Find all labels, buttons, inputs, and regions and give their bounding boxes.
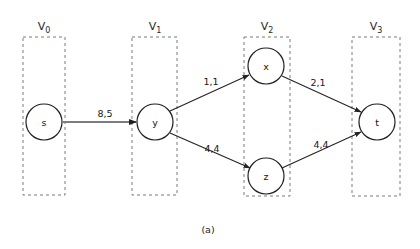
edge-label-y-x: 1,1 [203, 76, 218, 87]
edge-z-t [282, 132, 361, 168]
flow-network-diagram: V0V1V2V3 8,51,14,42,14,4 syxzt (a) [0, 0, 420, 249]
node-label-s: s [42, 117, 47, 128]
edge-label-s-y: 8,5 [97, 108, 112, 119]
edge-group [63, 75, 361, 168]
edge-label-y-z: 4,4 [204, 143, 219, 154]
layer-label-group: V0V1V2V3 [38, 20, 383, 35]
layer-group [23, 37, 400, 196]
node-label-x: x [263, 61, 269, 72]
node-label-z: z [264, 171, 269, 182]
edge-label-z-t: 4,4 [313, 139, 328, 150]
layer-label-v2: V2 [261, 20, 274, 35]
node-label-y: y [152, 117, 158, 128]
layer-label-v3: V3 [370, 20, 383, 35]
layer-label-v1: V1 [149, 20, 162, 35]
layer-label-v0: V0 [38, 20, 51, 35]
edge-label-x-t: 2,1 [310, 77, 325, 88]
figure-caption: (a) [201, 224, 214, 235]
figure-canvas: V0V1V2V3 8,51,14,42,14,4 syxzt (a) [0, 0, 420, 249]
node-label-t: t [375, 117, 379, 128]
